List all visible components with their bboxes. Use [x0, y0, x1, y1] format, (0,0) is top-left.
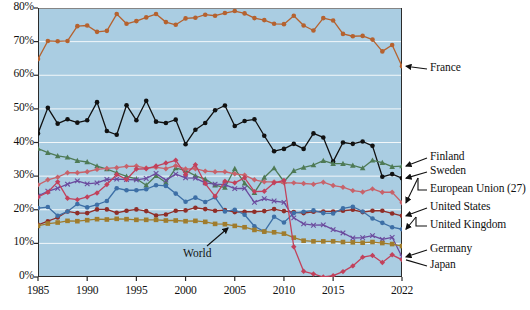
- plot-area: [38, 8, 402, 277]
- legend-label-germany: Germany: [430, 242, 472, 254]
- legend-label-sweden: Sweden: [430, 164, 466, 176]
- x-tick-label: 2005: [212, 284, 258, 296]
- legend-label-european-union-27-: European Union (27): [430, 182, 526, 194]
- y-tick-label: 10%: [0, 235, 34, 247]
- legend-label-france: France: [430, 61, 461, 73]
- x-tick-label: 2010: [261, 284, 307, 296]
- x-tick-label: 1985: [15, 284, 61, 296]
- y-tick-label: 0%: [0, 269, 34, 281]
- legend-label-japan: Japan: [430, 258, 456, 270]
- legend-leader-france: [406, 66, 427, 69]
- legend-leader-japan: [406, 260, 427, 266]
- x-tick-label: 2015: [310, 284, 356, 296]
- y-tick-label: 70%: [0, 34, 34, 46]
- y-tick-label: 60%: [0, 67, 34, 79]
- y-tick-label: 20%: [0, 202, 34, 214]
- chart-root: 0%10%20%30%40%50%60%70%80% 1985199019952…: [0, 0, 530, 310]
- legend-label-finland: Finland: [430, 150, 464, 162]
- legend-leader-united-states: [406, 208, 427, 216]
- y-tick-label: 40%: [0, 135, 34, 147]
- x-tick-label: 1990: [64, 284, 110, 296]
- y-tick-label: 80%: [0, 0, 34, 12]
- legend-label-united-states: United States: [430, 200, 490, 212]
- legend-leader-european-union-27-: [406, 178, 427, 203]
- legend-leader-united-kingdom: [406, 217, 427, 229]
- x-tick-label: 1995: [113, 284, 159, 296]
- legend-label-united-kingdom: United Kingdom: [430, 218, 506, 230]
- y-tick-label: 50%: [0, 101, 34, 113]
- legend-leader-finland: [406, 158, 427, 166]
- y-tick-label: 30%: [0, 168, 34, 180]
- annotation-world: World: [183, 247, 211, 259]
- legend-leader-germany: [406, 250, 427, 257]
- x-tick-label: 2022: [379, 284, 425, 296]
- legend-leader-sweden: [406, 172, 427, 178]
- x-tick-label: 2000: [163, 284, 209, 296]
